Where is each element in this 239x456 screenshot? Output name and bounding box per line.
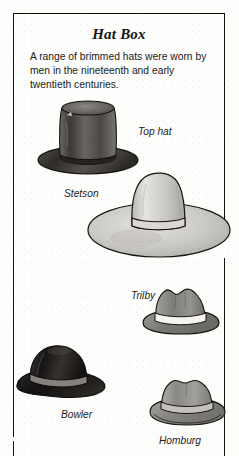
hat-box-figure: Hat Box A range of brimmed hats were wor…	[0, 0, 239, 456]
intro-paragraph: A range of brimmed hats were worn by men…	[30, 50, 213, 93]
label-stetson: Stetson	[64, 188, 99, 199]
box-border-left-lower	[13, 441, 14, 456]
label-trilby: Trilby	[131, 290, 155, 301]
illustration-stetson	[86, 168, 232, 260]
box-border-top	[13, 13, 225, 14]
illustration-top-hat	[36, 97, 140, 179]
illustration-bowler	[14, 337, 110, 407]
page-title: Hat Box	[13, 26, 225, 43]
illustration-homburg	[147, 376, 229, 432]
label-top-hat: Top hat	[138, 126, 172, 137]
label-bowler: Bowler	[61, 409, 92, 420]
label-homburg: Homburg	[159, 435, 201, 446]
